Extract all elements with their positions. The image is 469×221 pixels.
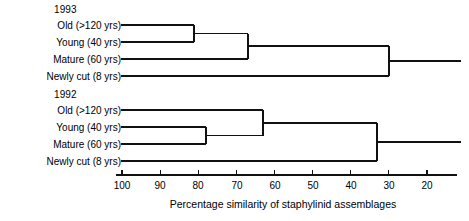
x-tick-label-80: 80 (192, 180, 203, 191)
x-tick-label-30: 30 (383, 180, 394, 191)
x-tick-label-70: 70 (231, 180, 242, 191)
x-tick-label-20: 20 (421, 180, 432, 191)
x-tick-label-100: 100 (114, 180, 131, 191)
x-tick-label-90: 90 (154, 180, 165, 191)
x-tick-label-50: 50 (307, 180, 318, 191)
x-tick-label-60: 60 (269, 180, 280, 191)
x-tick-label-40: 40 (345, 180, 356, 191)
dendrogram-figure: 1993 Old (>120 yrs) Young (40 yrs) Matur… (0, 0, 469, 221)
x-axis-title: Percentage similarity of staphylinid ass… (170, 198, 396, 210)
